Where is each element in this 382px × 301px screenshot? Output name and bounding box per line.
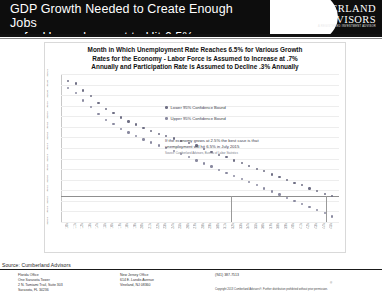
- data-point: [127, 131, 129, 133]
- y-axis-ticks: Jan-21Jul-20Jan-20Jul-19Jan-19Jul-18Jan-…: [46, 74, 61, 222]
- gridline: [61, 211, 339, 212]
- x-tick-label: 1.1%: [74, 223, 77, 229]
- x-tick-label: 1.5%: [104, 223, 107, 229]
- legend-item-lower: Lower 95% Confidence Bound: [165, 105, 269, 110]
- x-tick-label: 3.2%: [232, 223, 235, 229]
- legend-label-upper: Upper 95% Confidence Bound: [171, 116, 226, 121]
- y-tick-label: Jan-16: [46, 175, 49, 183]
- y-tick-label: Jul-20: [46, 80, 49, 87]
- x-tick-label: 4.2%: [307, 223, 310, 229]
- x-tick-label: 2.7%: [194, 223, 197, 229]
- x-tick-label: 2.8%: [202, 223, 205, 229]
- x-tick-label: 1.9%: [134, 223, 137, 229]
- data-point: [142, 138, 144, 140]
- y-tick-label: Jan-15: [46, 196, 49, 204]
- page-title-line1: GDP Growth Needed to Create Enough Jobs: [10, 2, 233, 30]
- logo-line1: CUMBERLAND: [298, 3, 376, 14]
- x-tick-label: 3.9%: [285, 223, 288, 229]
- x-tick-label: 2.9%: [209, 223, 212, 229]
- y-tick-label: Jul-17: [46, 143, 49, 150]
- data-point: [90, 95, 92, 97]
- gridline: [61, 169, 339, 170]
- data-point: [293, 182, 295, 184]
- x-tick-label: 3.1%: [224, 223, 227, 229]
- x-tick-label: 1.8%: [126, 223, 129, 229]
- gridline: [61, 127, 339, 128]
- x-tick-label: 4.0%: [292, 223, 295, 229]
- data-point: [158, 144, 160, 146]
- gridline: [61, 74, 339, 75]
- gridline: [61, 159, 339, 160]
- data-point: [203, 162, 205, 164]
- footer-office-newjersey: New Jersey Office 614 E. Landis Avenue V…: [120, 273, 154, 288]
- x-tick-label: 1.4%: [96, 223, 99, 229]
- x-tick-label: 3.5%: [255, 223, 258, 229]
- data-point: [241, 162, 243, 164]
- data-point: [90, 106, 92, 108]
- data-point: [278, 176, 280, 178]
- x-tick-label: 2.1%: [149, 223, 152, 229]
- x-tick-label: 4.5%: [330, 223, 333, 229]
- x-tick-label: 1.6%: [111, 223, 114, 229]
- x-tick-label: 4.1%: [300, 223, 303, 229]
- x-tick-label: 2.0%: [141, 223, 144, 229]
- x-tick-label: 2.4%: [172, 223, 175, 229]
- x-tick-label: 4.3%: [315, 223, 318, 229]
- data-point: [75, 92, 77, 94]
- x-tick-label: 3.6%: [262, 223, 265, 229]
- logo-text: CUMBERLAND ADVISORS A REGISTERED INVESTM…: [298, 3, 376, 29]
- marker-vline-segment: [231, 196, 232, 222]
- y-tick-label: Jan-18: [46, 132, 49, 140]
- footer-office-florida: Florida Office One Sarasota Tower 2 N. T…: [18, 273, 63, 293]
- logo-line2: ADVISORS: [298, 14, 376, 25]
- x-tick-label: 2.5%: [179, 223, 182, 229]
- data-point: [195, 159, 197, 161]
- header-divider-thin: [0, 38, 382, 39]
- gridline: [61, 190, 339, 191]
- gridline: [61, 201, 339, 202]
- florida-office-l4: Sarasota, FL 34236: [18, 288, 63, 293]
- chart-annotation: If the economy grows at 2.5% the best ca…: [165, 138, 285, 156]
- header-banner: GDP Growth Needed to Create Enough Jobs …: [0, 0, 382, 34]
- legend-marker-lower-icon: [165, 106, 168, 109]
- y-tick-label: Jul-15: [46, 185, 49, 192]
- data-point: [233, 159, 235, 161]
- x-axis-ticks: 1.0%1.1%1.2%1.3%1.4%1.5%1.6%1.7%1.8%1.9%…: [61, 223, 339, 251]
- header-divider: [0, 34, 382, 37]
- data-point: [142, 127, 144, 129]
- gridline: [61, 180, 339, 181]
- y-tick-label: Jul-14: [46, 206, 49, 213]
- data-point: [120, 116, 122, 118]
- data-point: [278, 193, 280, 195]
- chart-title-line3: Annually and Participation Rate is Assum…: [53, 63, 337, 72]
- y-tick-label: Jul-19: [46, 101, 49, 108]
- y-tick-label: Jan-20: [46, 90, 49, 98]
- nj-office-l3: Vineland, NJ 08360: [120, 283, 154, 288]
- x-tick-label: 2.2%: [157, 223, 160, 229]
- y-tick-label: Jan-21: [46, 69, 49, 77]
- data-point: [97, 113, 99, 115]
- y-tick-label: Jul-16: [46, 164, 49, 171]
- data-point: [97, 102, 99, 104]
- x-tick-label: 3.0%: [217, 223, 220, 229]
- x-tick-label: 4.4%: [323, 223, 326, 229]
- data-point: [127, 120, 129, 122]
- chart-title: Month in Which Unemployment Rate Reaches…: [53, 46, 337, 72]
- gridline: [61, 95, 339, 96]
- marker-vline-segment: [326, 196, 327, 222]
- y-tick-label: Jan-17: [46, 154, 49, 162]
- data-point: [75, 82, 77, 84]
- gridline: [61, 85, 339, 86]
- x-tick-label: 2.6%: [187, 223, 190, 229]
- data-point: [271, 190, 273, 192]
- x-tick-label: 1.3%: [89, 223, 92, 229]
- x-tick-label: 1.7%: [119, 223, 122, 229]
- chart-title-line2: Rates for the Economy - Labor Force is A…: [53, 55, 337, 64]
- y-tick-label: Jan-14: [46, 217, 49, 225]
- x-tick-label: 3.4%: [247, 223, 250, 229]
- footer-disclaimer: Copyright 2013 Cumberland Advisors®. Fur…: [215, 288, 328, 291]
- x-tick-label: 3.7%: [270, 223, 273, 229]
- x-tick-label: 1.2%: [81, 223, 84, 229]
- data-point: [324, 193, 326, 195]
- chart-legend: Lower 95% Confidence Bound Upper 95% Con…: [165, 105, 269, 127]
